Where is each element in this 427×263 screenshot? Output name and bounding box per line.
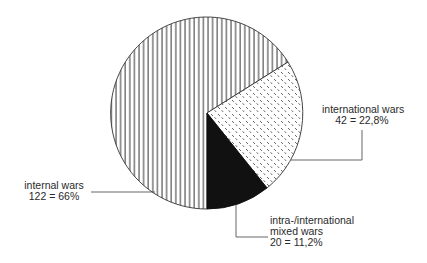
leader-line-mixed bbox=[236, 205, 268, 237]
label-international-wars: international wars 42 = 22,8% bbox=[322, 104, 402, 126]
pie-chart bbox=[0, 0, 427, 263]
label-mixed-value: 20 = 11,2% bbox=[270, 237, 354, 248]
label-international-value: 42 = 22,8% bbox=[322, 115, 402, 126]
leader-line-international bbox=[291, 130, 362, 160]
label-internal-wars: internal wars 122 = 66% bbox=[19, 180, 89, 202]
label-internal-value: 122 = 66% bbox=[19, 191, 89, 202]
label-mixed-wars: intra-/international mixed wars 20 = 11,… bbox=[270, 215, 354, 248]
